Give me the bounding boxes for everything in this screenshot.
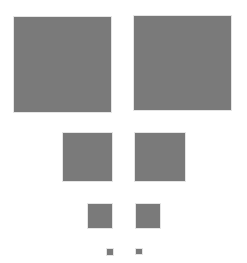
square-small-right: [136, 204, 160, 228]
square-tiny-right: [136, 249, 142, 254]
square-medium-left: [63, 133, 112, 181]
square-small-left: [88, 204, 112, 228]
square-tiny-left: [107, 249, 113, 255]
square-medium-right: [135, 133, 185, 181]
square-large-left: [14, 17, 111, 112]
square-large-right: [134, 16, 231, 110]
